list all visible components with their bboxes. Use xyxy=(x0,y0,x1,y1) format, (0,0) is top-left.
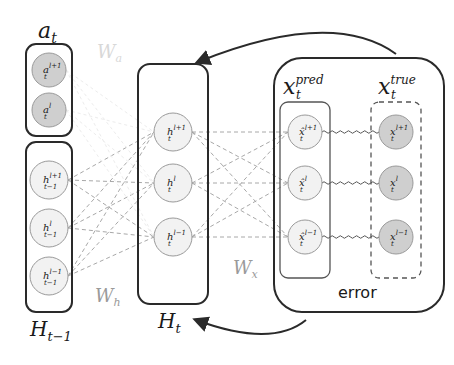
wh-connection-2-1 xyxy=(68,183,154,276)
x-pred-group-sub: t xyxy=(296,88,301,102)
error-label: error xyxy=(338,283,377,302)
h-prev-group-label: Ht−1 xyxy=(29,317,72,344)
x-pred-node: x̂lt xyxy=(288,166,322,200)
bottom-feedback-arrow xyxy=(196,320,306,334)
node-sub-label: t xyxy=(391,186,394,194)
h-prev-node: hl+1t−1 xyxy=(30,161,68,199)
wh-connection-1-0 xyxy=(68,132,154,228)
x-true-group-label: xtrue xyxy=(378,73,416,99)
x-true-node: xl−1t xyxy=(379,220,413,254)
diagram: at Ht−1 Ht xpred t xtrue t Wa Wh Wx erro… xyxy=(0,0,454,365)
h-t-group-label: Ht xyxy=(157,309,181,336)
a-group-label: at xyxy=(38,18,57,46)
node-sub-label: t xyxy=(168,186,171,194)
x-pred-group-label: xpred xyxy=(283,73,324,99)
a-node: al+1t xyxy=(32,53,66,87)
nodes: al+1talthl+1t−1hlt−1hl−1t−1hl+1thlthl−1t… xyxy=(30,53,413,295)
node-sub-label: t xyxy=(44,73,47,81)
weight-wx-label: Wx xyxy=(233,257,259,281)
node-sub-label: t−1 xyxy=(44,183,57,191)
weight-wh-label: Wh xyxy=(95,285,121,309)
node-sub-label: t xyxy=(300,186,303,194)
h-t-node: hl+1t xyxy=(154,113,192,151)
h-prev-node: hlt−1 xyxy=(30,209,68,247)
wa-connection-1-2 xyxy=(66,110,154,237)
x-true-group-sub: t xyxy=(391,88,396,102)
h-t-node: hlt xyxy=(154,164,192,202)
wa-connection-1-0 xyxy=(66,110,154,132)
node-sub-label: t xyxy=(300,135,303,143)
x-true-node: xl+1t xyxy=(379,115,413,149)
x-true-node: xlt xyxy=(379,166,413,200)
wh-connection-1-1 xyxy=(68,183,154,228)
node-sub-label: t xyxy=(391,240,394,248)
node-sub-label: t xyxy=(168,240,171,248)
wh-connection-2-0 xyxy=(68,132,154,276)
node-sub-label: t xyxy=(168,135,171,143)
wh-connection-0-2 xyxy=(68,180,154,237)
h-prev-node: hl−1t−1 xyxy=(30,257,68,295)
wa-connection-1-1 xyxy=(66,110,154,183)
node-sub-label: t−1 xyxy=(44,279,57,287)
node-sub-label: t−1 xyxy=(44,231,57,239)
connections xyxy=(66,70,379,276)
node-sub-label: t xyxy=(44,113,47,121)
wh-connection-2-2 xyxy=(68,237,154,276)
x-pred-node: x̂l+1t xyxy=(288,115,322,149)
a-node: alt xyxy=(32,93,66,127)
weight-wa-label: Wa xyxy=(97,41,122,65)
h-t-node: hl−1t xyxy=(154,218,192,256)
node-sub-label: t xyxy=(391,135,394,143)
node-sub-label: t xyxy=(300,240,303,248)
wa-connection-0-1 xyxy=(66,70,154,183)
wa-connection-0-0 xyxy=(66,70,154,132)
x-pred-node: x̂l−1t xyxy=(288,220,322,254)
